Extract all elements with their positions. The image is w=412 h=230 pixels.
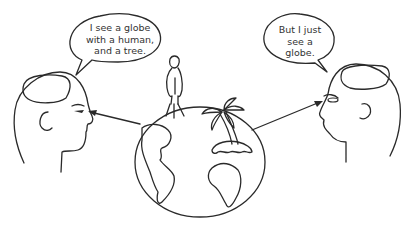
perception-diagram: I see a globe with a human, and a tree. … (0, 0, 412, 230)
left-bubble-line: and a tree. (82, 45, 158, 57)
arrow-to-left-eye (88, 110, 140, 124)
right-bubble-line: see a (270, 36, 330, 48)
right-bubble-text: But I just see a globe. (270, 24, 330, 59)
left-bubble-line: I see a globe (82, 22, 158, 34)
left-bubble-line: with a human, (82, 34, 158, 46)
globe (135, 107, 265, 217)
palm-tree (202, 98, 244, 144)
left-bubble-text: I see a globe with a human, and a tree. (82, 22, 158, 57)
arrow-to-right-eye (252, 101, 323, 130)
right-head (319, 64, 400, 162)
left-head (14, 72, 93, 172)
right-bubble-line: globe. (270, 47, 330, 59)
right-bubble-line: But I just (270, 24, 330, 36)
